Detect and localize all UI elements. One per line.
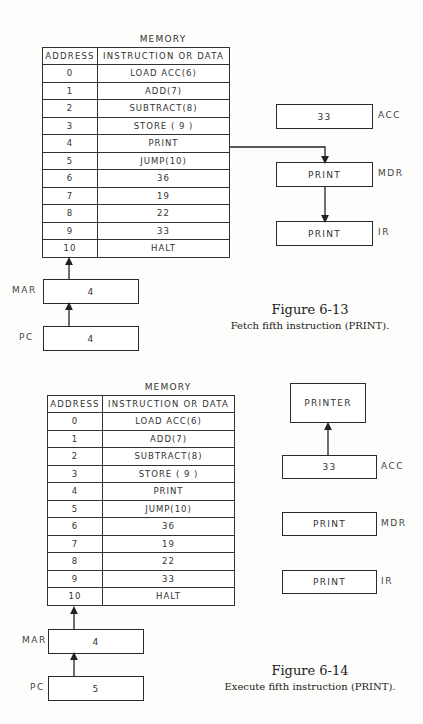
memory-to-mdr-arrow [230, 147, 325, 160]
connector-arrows [0, 0, 423, 724]
